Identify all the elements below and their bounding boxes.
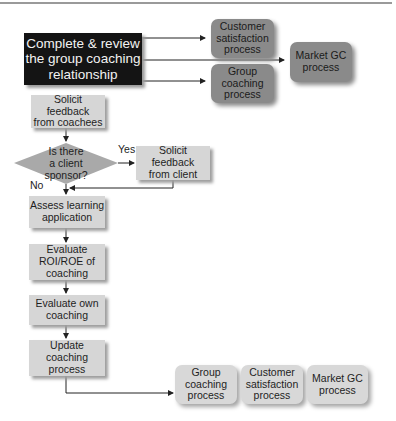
node-line: process [46,364,88,376]
bottom-market-gc-process: Market GC process [307,365,368,404]
step-solicit-feedback-client: Solicit feedback from client [136,146,210,180]
node-line: Group [221,66,263,78]
start-node-line-2: the group coaching [26,51,141,66]
node-line: process [312,385,363,397]
node-line: from coachees [34,117,103,129]
node-line: process [296,62,347,74]
node-line: process [185,390,227,402]
start-node-line-1: Complete & review [26,36,141,51]
node-line: Solicit [34,94,103,106]
node-line: Customer [246,367,299,379]
node-line: coaching [39,268,95,280]
node-line: Customer [216,21,269,33]
node-line: Group [185,367,227,379]
node-line: Is there [36,146,96,158]
node-line: Market GC [312,373,363,385]
top-customer-satisfaction-process: Customer satisfaction process [211,19,274,58]
node-line: a client [36,158,96,170]
top-market-gc-process: Market GC process [290,42,352,82]
node-line: sponsor? [36,170,96,182]
node-line: application [30,212,104,224]
step-update-coaching-process: Update coaching process [29,340,105,376]
decision-yes-label: Yes [118,143,135,155]
bottom-customer-satisfaction-process: Customer satisfaction process [241,365,303,404]
node-line: coaching [35,310,98,322]
start-node-complete-review: Complete & review the group coaching rel… [24,33,142,85]
node-line: process [246,390,299,402]
step-evaluate-own-coaching: Evaluate own coaching [29,295,105,325]
node-line: process [216,44,269,56]
top-group-coaching-process: Group coaching process [211,64,274,103]
decision-client-sponsor-text: Is there a client sponsor? [36,146,96,181]
start-node-line-3: relationship [26,67,141,82]
step-assess-learning-application: Assess learning application [29,196,105,228]
step-solicit-feedback-coachees: Solicit feedback from coachees [31,95,105,128]
step-evaluate-roi-roe: Evaluate ROI/ROE of coaching [29,244,105,280]
node-line: from client [149,169,197,181]
bottom-group-coaching-process: Group coaching process [175,365,237,404]
node-line: process [221,89,263,101]
decision-no-label: No [30,179,43,191]
